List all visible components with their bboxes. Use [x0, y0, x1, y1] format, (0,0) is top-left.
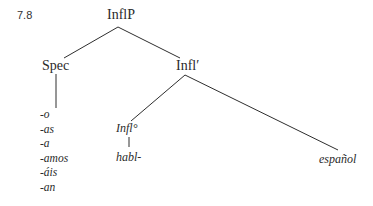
branch-inflbar-inflhead	[131, 75, 185, 121]
branch-inflp-spec	[64, 27, 118, 58]
node-infl-bar: Infl′	[176, 59, 199, 73]
suffix-item: -an	[40, 180, 68, 195]
node-complement: español	[319, 153, 356, 165]
suffix-item: -áis	[40, 165, 68, 180]
node-spec: Spec	[42, 59, 69, 73]
suffix-item: -amos	[40, 151, 68, 166]
suffix-item: -o	[40, 107, 68, 122]
example-number: 7.8	[17, 10, 32, 21]
node-infl-head: Infl°	[116, 122, 137, 134]
node-inflp: InflP	[107, 8, 135, 22]
node-verb-stem: habl-	[116, 151, 141, 163]
branch-inflbar-complement	[185, 75, 338, 150]
suffix-item: -a	[40, 136, 68, 151]
spec-suffix-list: -o -as -a -amos -áis -an	[40, 107, 68, 194]
branch-inflp-inflbar	[118, 27, 180, 58]
suffix-item: -as	[40, 122, 68, 137]
